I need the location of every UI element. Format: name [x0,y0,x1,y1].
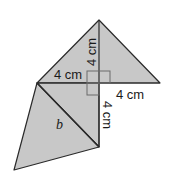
label-right-horizontal: 4 cm [116,87,144,102]
label-left-horizontal: 4 cm [54,67,82,82]
label-bottom-vertical: 4 cm [100,101,115,129]
label-top-vertical: 4 cm [84,38,99,66]
label-hypotenuse-b: b [56,117,63,132]
triangle-net-figure: 4 cm 4 cm 4 cm 4 cm b [0,0,172,182]
